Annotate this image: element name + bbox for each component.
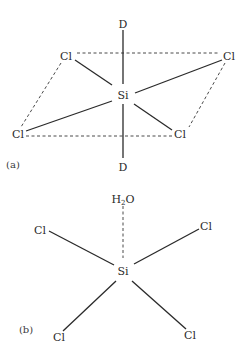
atom-cl-upper-left-b: Cl	[34, 224, 46, 237]
atom-d-bottom: D	[119, 161, 128, 174]
molecule-h2o: H2O	[111, 193, 134, 207]
atom-cl-upper-left-a: Cl	[60, 50, 72, 63]
atom-cl-lower-right-a: Cl	[174, 128, 186, 141]
atom-si-a: Si	[117, 89, 129, 102]
panel-a: D D Si Cl Cl Cl Cl (a)	[6, 18, 235, 174]
bond-si-cl-lower-right	[134, 104, 172, 130]
bond-si-cl-upper-left-b	[49, 231, 114, 265]
panel-label-b: (b)	[19, 324, 33, 335]
atom-d-top: D	[119, 18, 128, 31]
atom-cl-lower-left-a: Cl	[12, 128, 24, 141]
atom-si-b: Si	[117, 265, 129, 278]
atom-cl-lower-right-b: Cl	[184, 329, 196, 342]
diagram-canvas: D D Si Cl Cl Cl Cl (a) H2O Si Cl Cl Cl C…	[0, 0, 250, 348]
atom-cl-lower-left-b: Cl	[53, 331, 65, 344]
bond-si-cl-lower-left	[26, 101, 112, 131]
atom-cl-upper-right-b: Cl	[200, 220, 212, 233]
dashed-edge-left	[21, 63, 61, 127]
bond-si-cl-lower-right-b	[132, 281, 186, 329]
bond-si-cl-upper-right-b	[134, 229, 199, 264]
bond-si-cl-lower-left-b	[63, 281, 116, 331]
panel-label-a: (a)	[6, 159, 20, 170]
bond-si-cl-upper-right	[135, 60, 222, 93]
atom-cl-upper-right-a: Cl	[223, 50, 235, 63]
panel-b: H2O Si Cl Cl Cl Cl (b)	[19, 193, 213, 344]
dashed-edge-right	[189, 63, 225, 127]
bond-si-cl-upper-left	[75, 60, 112, 85]
